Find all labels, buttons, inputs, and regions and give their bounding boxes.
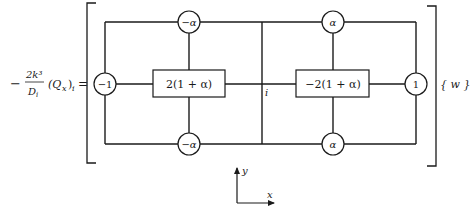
lhs-term: (Q [48, 78, 61, 91]
node-bottom-right-label: α [330, 139, 337, 150]
node-top-left-label: −α [181, 17, 196, 28]
node-top-left: −α [178, 11, 200, 33]
lhs-minus-sign: − [10, 76, 21, 91]
lhs-term-subscript: x [62, 84, 67, 93]
lhs-expression: − 2k³ D i (Q x ) i = [10, 69, 88, 99]
node-right-label: 1 [413, 79, 419, 90]
stencil-diagram: − 2k³ D i (Q x ) i = 2(1 + α) −2(1 + α) [0, 0, 471, 219]
lhs-denominator: D [27, 86, 36, 97]
node-left: −1 [94, 73, 116, 95]
lhs-term-outer-subscript: i [72, 84, 75, 93]
box-left-label: 2(1 + α) [166, 78, 212, 91]
right-bracket [427, 6, 436, 166]
box-left: 2(1 + α) [153, 70, 225, 97]
node-bottom-left: −α [178, 133, 200, 155]
y-axis-label: y [241, 165, 248, 176]
coordinate-axes: y x [237, 165, 274, 203]
x-axis-label: x [267, 189, 273, 200]
lhs-denominator-subscript: i [36, 91, 38, 99]
node-right: 1 [405, 73, 427, 95]
vector-w-label: { w } [440, 78, 470, 91]
node-bottom-left-label: −α [181, 139, 196, 150]
node-bottom-right: α [322, 133, 344, 155]
lhs-numerator: 2k³ [25, 69, 42, 80]
box-right-label: −2(1 + α) [305, 78, 360, 91]
box-right: −2(1 + α) [296, 70, 369, 97]
node-left-label: −1 [98, 79, 113, 90]
node-top-right-label: α [330, 17, 337, 28]
node-top-right: α [322, 11, 344, 33]
center-node-label: i [265, 87, 268, 98]
